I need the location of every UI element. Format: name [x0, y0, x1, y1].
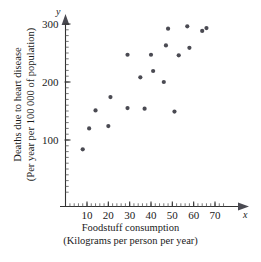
x-tick-label: 50	[167, 209, 179, 221]
y-axis-arrowhead	[62, 14, 70, 25]
y-tick-label: 100	[42, 134, 59, 146]
data-point	[87, 126, 91, 130]
data-point	[187, 46, 191, 50]
data-point	[185, 24, 189, 28]
x-tick-label: 40	[146, 209, 158, 221]
data-point	[200, 29, 204, 33]
y-axis-tick-labels: 100200300	[42, 18, 59, 146]
data-point	[106, 124, 110, 128]
x-axis-label: Foodstuff consumption (Kilograms per per…	[0, 222, 261, 247]
data-point	[125, 106, 129, 110]
data-point	[177, 53, 181, 57]
data-point	[162, 80, 166, 84]
y-tick-label: 300	[42, 18, 59, 30]
x-axis-label-main: Foodstuff consumption	[0, 222, 261, 235]
x-tick-label: 30	[124, 209, 136, 221]
y-axis-label-main: Deaths due to heart disease	[12, 19, 25, 191]
data-point	[204, 26, 208, 30]
x-axis-symbol: x	[242, 209, 248, 220]
x-axis-label-sub: (Kilograms per person per year)	[0, 235, 261, 248]
x-tick-label: 70	[210, 209, 222, 221]
data-point	[138, 75, 142, 79]
data-point	[151, 69, 155, 73]
x-axis-tick-labels: 10203040506070	[82, 209, 222, 221]
y-axis-label: Deaths due to heart disease (Per year pe…	[12, 19, 37, 191]
data-point-group	[81, 24, 209, 151]
x-axis-major-ticks	[87, 202, 215, 207]
data-point	[143, 107, 147, 111]
x-tick-label: 20	[103, 209, 115, 221]
data-point	[93, 108, 97, 112]
y-axis-symbol: y	[55, 6, 61, 17]
y-tick-label: 200	[42, 76, 59, 88]
data-point	[166, 27, 170, 31]
x-tick-label: 10	[82, 209, 94, 221]
data-point	[108, 95, 112, 99]
data-point	[125, 53, 129, 57]
data-point	[81, 147, 85, 151]
data-point	[172, 109, 176, 113]
x-tick-label: 60	[188, 209, 200, 221]
y-axis-label-sub: (Per year per 100 000 of population)	[24, 19, 37, 191]
data-point	[149, 53, 153, 57]
data-point	[164, 43, 168, 47]
scatter-plot-figure: 100200300 10203040506070 y x Deaths due …	[0, 0, 261, 262]
